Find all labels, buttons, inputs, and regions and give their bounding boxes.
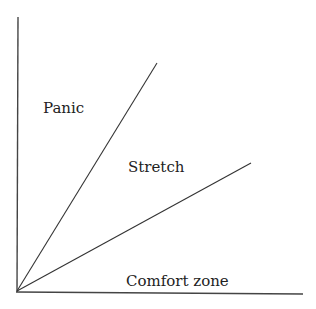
y-axis	[17, 17, 18, 292]
comfort-zone-diagram: Panic Stretch Comfort zone	[0, 0, 316, 309]
stretch-label: Stretch	[128, 158, 185, 176]
panic-stretch-boundary-line	[17, 63, 157, 291]
x-axis	[16, 292, 303, 294]
panic-label: Panic	[43, 99, 84, 117]
comfort-zone-label: Comfort zone	[126, 272, 229, 290]
